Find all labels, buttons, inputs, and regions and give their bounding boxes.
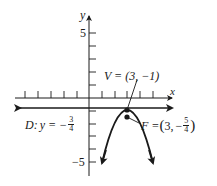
directrix-label: D: y = − 3 4 xyxy=(25,116,75,133)
parabola-diagram xyxy=(0,0,217,186)
focus-denominator: 4 xyxy=(184,126,188,134)
focus-x: 3, xyxy=(164,120,173,132)
focus-fraction: 5 4 xyxy=(183,117,189,134)
focus-prefix: F = xyxy=(141,120,159,132)
directrix-prefix: D: xyxy=(25,119,38,131)
y-axis-label: y xyxy=(80,9,85,21)
focus-close-paren: ) xyxy=(190,118,195,133)
y-tick-label-5: 5 xyxy=(80,27,86,39)
focus-label: F = ( 3, − 5 4 ) xyxy=(141,117,195,134)
x-axis xyxy=(15,91,172,98)
directrix-denominator: 4 xyxy=(69,125,73,133)
vertex-label-text: V = (3, −1) xyxy=(104,69,159,83)
x-axis-label: x xyxy=(170,86,175,97)
vertex-label: V = (3, −1) xyxy=(104,70,159,82)
y-axis xyxy=(89,16,96,176)
directrix-fraction: 3 4 xyxy=(68,116,74,133)
y-tick-label-neg5: −5 xyxy=(72,156,85,168)
directrix-equation: y = − xyxy=(40,119,68,131)
focus-minus: − xyxy=(175,120,182,132)
